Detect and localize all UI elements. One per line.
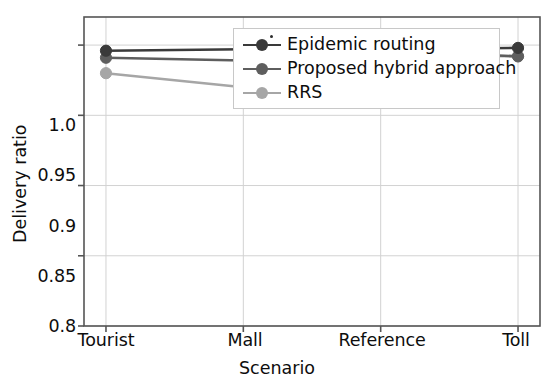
x-axis-label: Scenario [239,358,315,378]
chart-legend: Epidemic routing Proposed hybrid approac… [233,28,500,109]
series-2-point-0 [100,68,111,79]
legend-item-proposed-hybrid-approach: Proposed hybrid approach [234,57,499,81]
legend-marker-icon-2 [241,81,283,105]
legend-label-1: Proposed hybrid approach [283,60,516,78]
legend-marker-icon-0 [241,33,283,57]
legend-label-0: Epidemic routing [283,36,436,54]
xtick-label-toll: Toll [502,330,530,350]
legend-item-rrs: RRS [234,81,499,105]
ytick-label-1: 0.85 [20,266,76,286]
xtick-label-tourist: Tourist [78,330,135,350]
legend-item-epidemic-routing: Epidemic routing [234,33,499,57]
legend-label-2: RRS [283,84,322,102]
series-0-point-3 [512,42,523,53]
ytick-label-0: 0.8 [20,316,76,336]
xtick-label-mall: Mall [227,330,262,350]
xtick-label-reference: Reference [338,330,425,350]
y-axis-label: Delivery ratio [10,124,30,243]
legend-marker-icon-1 [241,57,283,81]
series-0-point-0 [100,45,111,56]
chart-figure: 0.8 0.85 0.9 0.95 1.0 Tourist Mall Refer… [0,0,555,388]
